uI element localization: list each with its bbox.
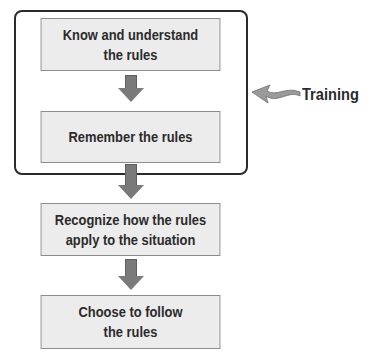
training-label: Training xyxy=(302,85,359,105)
step-recognize: Recognize how the rules apply to the sit… xyxy=(41,203,221,256)
step-label: Choose to follow the rules xyxy=(79,302,183,342)
step-choose: Choose to follow the rules xyxy=(41,295,221,349)
step-remember: Remember the rules xyxy=(41,111,221,163)
step-label: Remember the rules xyxy=(68,127,192,147)
step-label: Recognize how the rules apply to the sit… xyxy=(55,210,206,250)
curved-left-arrow-icon xyxy=(250,82,302,108)
down-arrow-icon xyxy=(118,164,144,200)
down-arrow-icon xyxy=(118,75,144,101)
down-arrow-icon xyxy=(118,259,144,291)
step-know-understand: Know and understand the rules xyxy=(41,18,221,71)
step-label: Know and understand the rules xyxy=(63,25,198,65)
